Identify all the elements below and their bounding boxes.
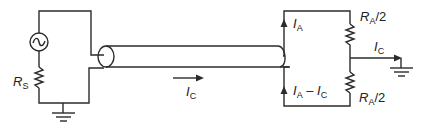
coax-cable: IC <box>98 46 290 101</box>
cable-current-label: IC <box>186 84 197 101</box>
circuit-diagram: RS IC IA RA/2 IA – I <box>0 0 424 132</box>
source-loop: RS <box>13 11 104 121</box>
upper-current-label: IA <box>293 16 303 33</box>
right-ground-icon <box>390 58 413 76</box>
ac-source-icon <box>30 33 48 51</box>
lower-resistor-label: RA/2 <box>359 90 385 107</box>
load-network: IA RA/2 IA – IC RA/2 IC <box>281 9 414 107</box>
upper-resistor-label: RA/2 <box>360 9 386 26</box>
source-top-wire <box>39 11 104 55</box>
upper-resistor-icon <box>346 24 354 72</box>
source-resistor-label: RS <box>13 74 28 91</box>
cable-current-arrow-icon <box>173 75 204 82</box>
lower-current-label: IA – IC <box>293 83 328 100</box>
ground-current-label: IC <box>374 39 385 56</box>
source-resistor-icon <box>35 67 43 88</box>
coax-left-end-icon <box>98 46 114 67</box>
lower-resistor-icon <box>346 72 354 93</box>
upper-current-arrow-icon <box>281 19 288 27</box>
source-bottom-wire <box>39 68 104 103</box>
left-ground-icon <box>52 103 75 121</box>
lower-current-arrow-icon <box>281 86 288 94</box>
